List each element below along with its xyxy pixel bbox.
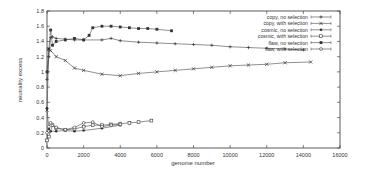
- line-chart: 020004000600080001000012000140001600000.…: [0, 0, 368, 176]
- y-tick-label: 0.6: [36, 99, 44, 105]
- x-tick-label: 16000: [332, 152, 347, 158]
- legend-label: cosmic, no selection: [261, 27, 308, 33]
- x-tick-label: 8000: [187, 152, 199, 158]
- legend-label: copy, with selection: [263, 20, 308, 26]
- series-flaw-no-selection: [46, 25, 173, 73]
- y-tick-label: 1.8: [36, 8, 44, 14]
- legend-label: flaw, with selection: [265, 46, 308, 52]
- y-tick-label: 1.6: [36, 23, 44, 29]
- series-copy-with-selection: [45, 47, 312, 111]
- x-tick-label: 2000: [78, 152, 90, 158]
- legend-label: copy, no selection: [267, 14, 308, 20]
- y-tick-label: 1.2: [36, 54, 44, 60]
- x-tick-label: 6000: [151, 152, 163, 158]
- x-tick-label: 12000: [259, 152, 274, 158]
- x-tick-label: 4000: [114, 152, 126, 158]
- legend: copy, no selectioncopy, with selectionco…: [258, 14, 331, 52]
- y-tick-label: 1: [41, 69, 44, 75]
- x-axis-label: genome number: [171, 160, 215, 166]
- y-tick-label: 0: [41, 145, 44, 151]
- x-tick-label: 0: [45, 152, 48, 158]
- y-axis-label: neutrality excess: [17, 58, 23, 103]
- x-tick-label: 14000: [296, 152, 311, 158]
- y-tick-label: 1.4: [36, 38, 44, 44]
- legend-label: cosmic, with selection: [258, 33, 308, 39]
- y-tick-label: 0.8: [36, 84, 44, 90]
- y-tick-label: 0.4: [36, 115, 44, 121]
- x-tick-label: 10000: [222, 152, 237, 158]
- series-cosmic-with-selection: [46, 119, 153, 142]
- y-tick-label: 0.2: [36, 130, 44, 136]
- legend-label: flaw, no selection: [268, 40, 308, 46]
- series-copy-no-selection: [45, 35, 305, 81]
